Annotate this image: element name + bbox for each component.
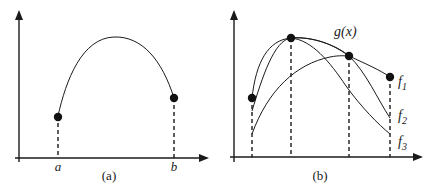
label-f2: f2: [398, 108, 407, 126]
point-dot-3: [345, 52, 353, 60]
label-g-of-x: g(x): [334, 24, 357, 40]
function-curve: [58, 37, 174, 116]
x-label-b: b: [171, 159, 178, 174]
panel-a: a b (a): [15, 12, 207, 183]
diagram-canvas: a b (a) g(x) f1 f2 f3 (b): [0, 0, 430, 188]
caption-a: (a): [102, 168, 116, 183]
label-f3: f3: [398, 134, 407, 152]
curve-f1: [252, 38, 390, 98]
endpoint-dot-b: [170, 94, 178, 102]
endpoint-dot-a: [54, 113, 62, 121]
point-dot-4: [386, 73, 394, 81]
curve-f2: [252, 38, 390, 118]
curve-f3-steep: [291, 38, 390, 134]
x-label-a: a: [55, 159, 62, 174]
point-dot-2: [287, 34, 295, 42]
label-f1: f1: [398, 74, 407, 92]
label-f3-sub: 3: [401, 141, 407, 152]
label-f1-sub: 1: [402, 81, 407, 92]
panel-b: g(x) f1 f2 f3 (b): [230, 12, 421, 183]
label-f2-sub: 2: [402, 115, 407, 126]
caption-b: (b): [312, 168, 327, 183]
point-dot-1: [248, 94, 256, 102]
